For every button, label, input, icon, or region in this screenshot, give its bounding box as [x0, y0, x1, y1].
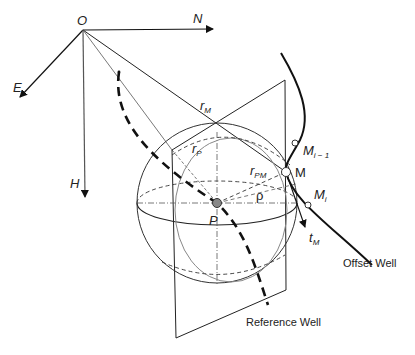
- rP-label: rP: [192, 141, 202, 158]
- rPM-label: rPM: [250, 163, 267, 180]
- well-geometry-diagram: O N E H rM rP rPM ρ tM P M Mi − 1 Mi Off…: [0, 0, 415, 355]
- rP-vector-line-visible: [83, 30, 172, 150]
- rM-label: rM: [200, 98, 211, 115]
- point-M: [282, 168, 291, 177]
- normal-plane: [172, 80, 286, 338]
- north-label: N: [193, 11, 203, 26]
- down-axis-arrow: [83, 30, 85, 197]
- coordinate-axes: [20, 29, 213, 197]
- rho-label: ρ: [256, 188, 263, 203]
- north-axis-arrow: [83, 29, 213, 30]
- east-axis-arrow: [20, 30, 83, 97]
- tM-label: tM: [309, 230, 320, 247]
- M-i-label: Mi: [314, 187, 327, 204]
- reference-well-start-dot: [118, 71, 121, 74]
- east-label: E: [13, 80, 22, 95]
- point-P: [213, 199, 222, 208]
- M-label: M: [295, 165, 306, 180]
- down-label: H: [70, 176, 80, 191]
- M-prev-label: Mi − 1: [303, 143, 329, 160]
- offset-well-label: Offset Well: [343, 257, 396, 269]
- origin-label: O: [77, 13, 87, 28]
- reference-well-label: Reference Well: [246, 316, 321, 328]
- rM-vector-line: [83, 30, 286, 172]
- point-M-i: [305, 202, 311, 208]
- P-label: P: [209, 213, 218, 228]
- point-M-prev: [292, 140, 298, 146]
